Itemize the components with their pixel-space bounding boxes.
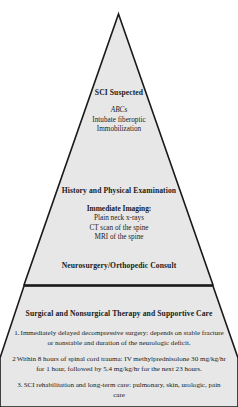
neurosurgery-orthopedic-consult: Neurosurgery/Orthopedic Consult <box>0 261 238 270</box>
therapy-list-item-3: 3.SCI rehabilitation and long-term care:… <box>0 381 238 400</box>
therapy-list-item-3-number: 3. <box>17 381 22 389</box>
tier-sci-suspected-line-immobilization: Immobilization <box>0 125 238 135</box>
tier-therapy-supportive-care: Surgical and Nonsurgical Therapy and Sup… <box>0 309 238 407</box>
therapy-list-item-2: 2Within 8 hours of spinal cord trauma: I… <box>0 355 238 374</box>
tier-sci-suspected-line-abcs: ABCs <box>0 106 238 116</box>
tier-sci-suspected-line-intubate: Intubate fiberoptic <box>0 116 238 126</box>
tier-history-physical: History and Physical Examination Immedia… <box>0 186 238 270</box>
tier-therapy-heading: Surgical and Nonsurgical Therapy and Sup… <box>0 309 238 318</box>
tier-sci-suspected-lines: ABCs Intubate fiberoptic Immobilization <box>0 106 238 135</box>
immediate-imaging-subheading: Immediate Imaging: <box>0 205 238 214</box>
therapy-list-item-1-text: Immediately delayed decompressive surger… <box>21 329 224 347</box>
pyramid-diagram: SCI Suspected ABCs Intubate fiberoptic I… <box>0 0 238 407</box>
tier-sci-suspected-heading: SCI Suspected <box>0 88 238 97</box>
therapy-list-item-2-number: 2 <box>12 355 16 363</box>
therapy-list-item-1: 1.Immediately delayed decompressive surg… <box>0 329 238 348</box>
imaging-line-mri: MRI of the spine <box>0 233 238 243</box>
immediate-imaging-block: Immediate Imaging: Plain neck x-rays CT … <box>0 205 238 243</box>
therapy-list-item-2-text: Within 8 hours of spinal cord trauma: IV… <box>17 355 226 373</box>
tier-history-physical-heading: History and Physical Examination <box>0 186 238 195</box>
imaging-line-plain-neck-xrays: Plain neck x-rays <box>0 214 238 224</box>
therapy-numbered-list: 1.Immediately delayed decompressive surg… <box>0 329 238 400</box>
therapy-list-item-1-number: 1. <box>14 329 19 337</box>
imaging-line-ct-scan: CT scan of the spine <box>0 224 238 234</box>
therapy-list-item-3-text: SCI rehabilitation and long-term care: p… <box>24 381 221 399</box>
tier-sci-suspected: SCI Suspected ABCs Intubate fiberoptic I… <box>0 88 238 135</box>
